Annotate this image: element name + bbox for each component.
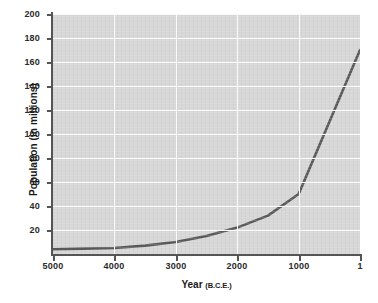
y-axis-tick-mark: [47, 134, 52, 136]
x-axis-title-main: Year: [181, 279, 202, 290]
x-axis-tick-label: 4000: [84, 261, 144, 271]
gridline-horizontal: [53, 14, 360, 15]
gridline-horizontal: [53, 134, 360, 135]
gridline-vertical: [237, 14, 238, 254]
gridline-horizontal: [53, 206, 360, 207]
y-axis-tick-mark: [47, 182, 52, 184]
y-axis-tick-mark: [47, 206, 52, 208]
gridline-horizontal: [53, 230, 360, 231]
x-axis-tick-label: 1: [330, 261, 378, 271]
y-axis-tick-mark: [47, 86, 52, 88]
gridline-horizontal: [53, 38, 360, 39]
y-axis-tick-mark: [47, 62, 52, 64]
gridline-horizontal: [53, 86, 360, 87]
x-axis-title-era: (B.C.E.): [205, 281, 231, 290]
x-axis-tick-label: 3000: [146, 261, 206, 271]
x-axis-tick-label: 5000: [23, 261, 83, 271]
gridline-horizontal: [53, 110, 360, 111]
gridline-horizontal: [53, 62, 360, 63]
gridline-horizontal: [53, 182, 360, 183]
plot-area: [53, 14, 360, 254]
y-axis-tick-label: 200: [0, 9, 40, 19]
gridline-vertical: [176, 14, 177, 254]
y-axis-tick-mark: [47, 14, 52, 16]
population-line-series: [53, 50, 360, 249]
gridline-vertical: [114, 14, 115, 254]
gridline-horizontal: [53, 158, 360, 159]
y-axis-title: Population (in millions): [28, 20, 39, 260]
x-axis-line: [51, 254, 362, 256]
x-axis-title: Year (B.C.E.): [53, 279, 360, 290]
x-axis-tick-label: 1000: [269, 261, 329, 271]
gridline-vertical: [299, 14, 300, 254]
y-axis-tick-mark: [47, 158, 52, 160]
y-axis-tick-mark: [47, 38, 52, 40]
x-axis-tick-label: 2000: [207, 261, 267, 271]
population-line-chart-figure: 20406080100120140160180200 5000400030002…: [0, 0, 378, 303]
y-axis-tick-mark: [47, 110, 52, 112]
y-axis-tick-mark: [47, 230, 52, 232]
